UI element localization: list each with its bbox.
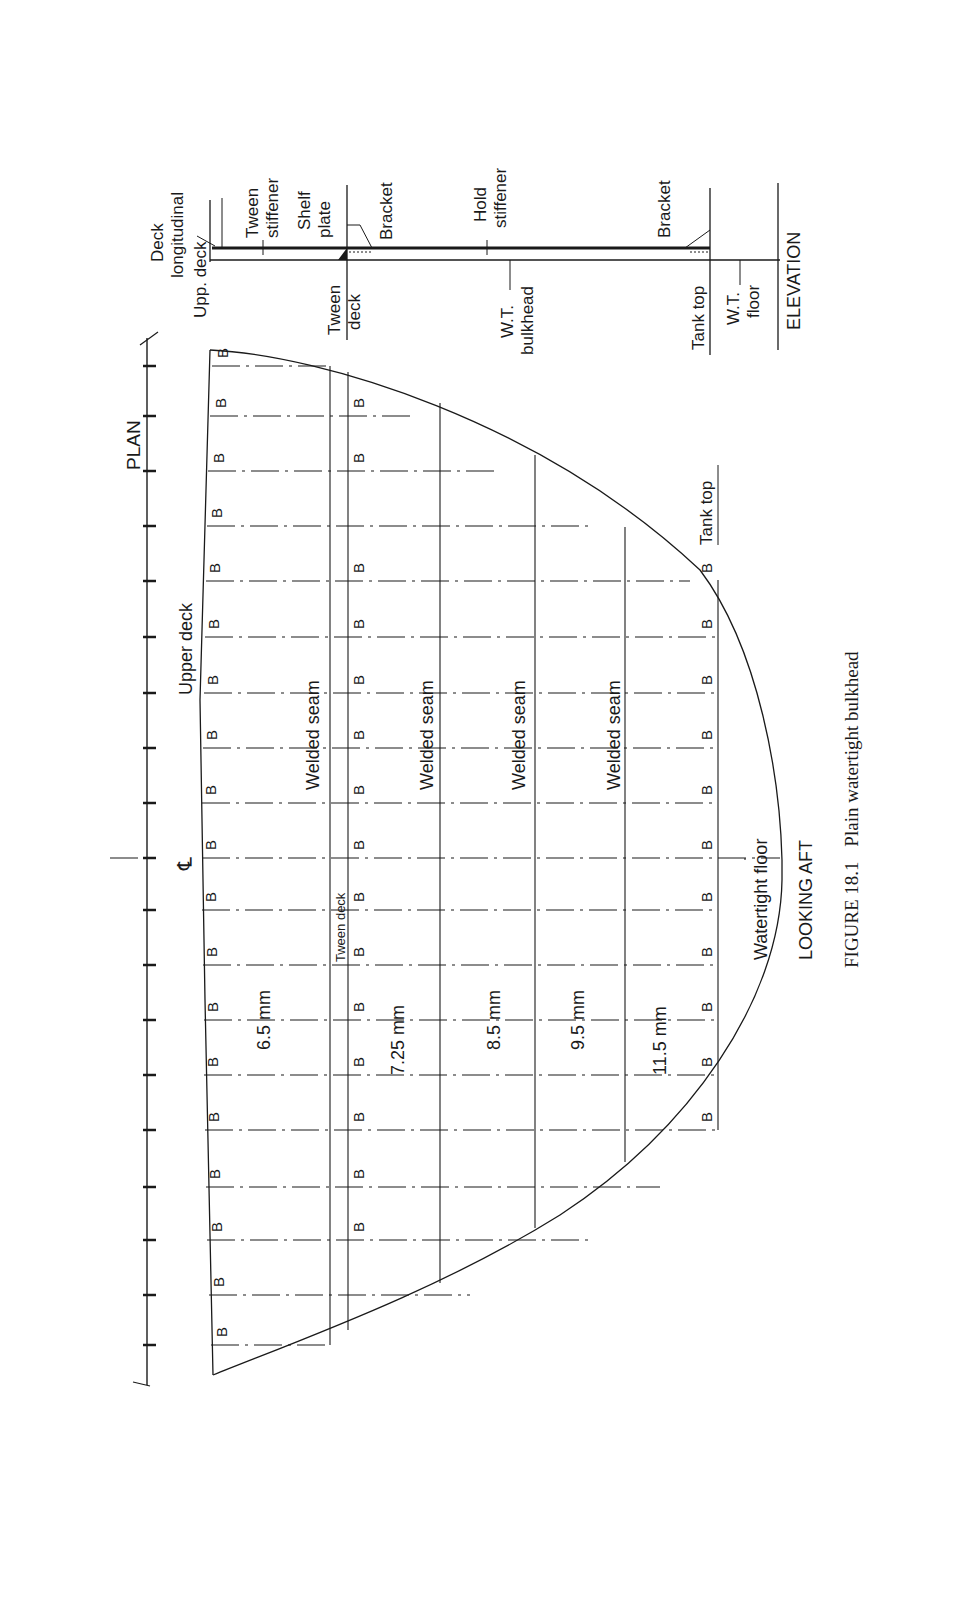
caption-text: Plain watertight bulkhead <box>841 651 862 847</box>
svg-text:B: B <box>350 453 367 463</box>
svg-text:Upp. deck: Upp. deck <box>191 241 210 318</box>
svg-text:B: B <box>350 398 367 408</box>
svg-text:B: B <box>698 619 715 629</box>
svg-text:B: B <box>206 1169 223 1179</box>
svg-text:B: B <box>205 619 222 629</box>
svg-text:B: B <box>350 1002 367 1012</box>
svg-text:B: B <box>202 785 219 795</box>
svg-text:Tween: Tween <box>325 285 344 335</box>
svg-text:B: B <box>208 1222 225 1232</box>
svg-text:W.T.: W.T. <box>498 305 517 338</box>
svg-text:B: B <box>350 675 367 685</box>
svg-text:B: B <box>350 892 367 902</box>
svg-text:Shelf: Shelf <box>295 191 314 230</box>
thickness-8-5: 8.5 mm <box>484 990 504 1050</box>
svg-text:B: B <box>698 840 715 850</box>
welded-seam-label: Welded seam <box>303 680 323 790</box>
looking-aft-label: LOOKING AFT <box>796 840 816 960</box>
svg-text:Hold: Hold <box>471 187 490 222</box>
svg-text:W.T.: W.T. <box>724 292 743 325</box>
svg-text:stiffener: stiffener <box>263 177 282 238</box>
svg-text:B: B <box>210 453 227 463</box>
svg-text:B: B <box>698 675 715 685</box>
svg-text:B: B <box>205 1112 222 1122</box>
svg-text:plate: plate <box>315 201 334 238</box>
svg-text:B: B <box>350 1222 367 1232</box>
svg-text:bulkhead: bulkhead <box>518 286 537 355</box>
thickness-11-5: 11.5 mm <box>650 1006 670 1075</box>
svg-text:B: B <box>350 840 367 850</box>
svg-text:B: B <box>202 892 219 902</box>
svg-text:longitudinal: longitudinal <box>168 192 187 278</box>
centreline-symbol: ℄ <box>174 857 196 871</box>
elevation: Deck longitudinal Upp. deck Tween stiffe… <box>148 167 804 355</box>
bulkhead-diagram: B B B B B B B B B B B B B B B B B B B B … <box>0 0 964 1597</box>
svg-text:B: B <box>350 1057 367 1067</box>
seams <box>330 366 745 1345</box>
upper-deck-label: Upper deck <box>176 602 196 695</box>
tank-top-label: Tank top <box>697 481 716 545</box>
tween-deck-label: Tween deck <box>333 892 348 962</box>
svg-text:B: B <box>350 1112 367 1122</box>
svg-text:B: B <box>698 1002 715 1012</box>
svg-text:B: B <box>698 947 715 957</box>
svg-text:B: B <box>350 947 367 957</box>
svg-text:B: B <box>208 508 225 518</box>
figure-caption: FIGURE 18.1 Plain watertight bulkhead <box>841 651 862 968</box>
stiffener-axis <box>110 332 158 1386</box>
svg-text:B: B <box>204 1002 221 1012</box>
svg-text:Deck: Deck <box>148 223 167 262</box>
svg-text:deck: deck <box>345 294 364 330</box>
svg-text:B: B <box>204 1057 221 1067</box>
svg-text:B: B <box>204 675 221 685</box>
svg-text:Bracket: Bracket <box>377 182 396 240</box>
svg-text:B: B <box>698 1112 715 1122</box>
svg-text:B: B <box>350 619 367 629</box>
caption-prefix: FIGURE 18.1 <box>841 861 862 968</box>
welded-seam-label: Welded seam <box>417 680 437 790</box>
svg-text:B: B <box>206 563 223 573</box>
svg-text:B: B <box>213 1327 230 1337</box>
svg-text:B: B <box>350 1169 367 1179</box>
svg-text:B: B <box>350 785 367 795</box>
svg-text:stiffener: stiffener <box>491 167 510 228</box>
svg-text:floor: floor <box>744 285 763 318</box>
welded-seam-label: Welded seam <box>604 680 624 790</box>
thickness-7-25: 7.25 mm <box>388 1005 408 1075</box>
svg-text:B: B <box>212 398 229 408</box>
svg-text:B: B <box>210 1277 227 1287</box>
hull-outline <box>200 350 782 1375</box>
svg-text:B: B <box>350 563 367 573</box>
svg-text:Tank top: Tank top <box>689 286 708 350</box>
svg-text:B: B <box>698 563 715 573</box>
svg-text:B: B <box>698 892 715 902</box>
svg-text:FIGURE 18.1 Plain watert: FIGURE 18.1 Plain watertight bulkhead <box>841 651 862 968</box>
thickness-6-5: 6.5 mm <box>254 990 274 1050</box>
watertight-floor-label: Watertight floor <box>751 839 771 960</box>
svg-text:Bracket: Bracket <box>655 180 674 238</box>
svg-text:Tween: Tween <box>243 188 262 238</box>
svg-text:B: B <box>214 348 231 358</box>
svg-text:B: B <box>698 785 715 795</box>
svg-text:B: B <box>698 730 715 740</box>
plan-title: PLAN <box>123 420 144 470</box>
svg-text:B: B <box>698 1057 715 1067</box>
welded-seam-label: Welded seam <box>509 680 529 790</box>
stiffeners <box>202 366 780 1345</box>
svg-text:B: B <box>350 730 367 740</box>
svg-text:B: B <box>203 730 220 740</box>
svg-text:B: B <box>203 947 220 957</box>
svg-text:B: B <box>202 840 219 850</box>
elevation-title: ELEVATION <box>784 232 804 330</box>
bracket-markers: B B B B B B B B B B B B B B B B B B B B … <box>202 348 715 1337</box>
thickness-9-5: 9.5 mm <box>568 990 588 1050</box>
